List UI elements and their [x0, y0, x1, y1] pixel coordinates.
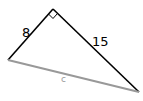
- left-leg: [8, 9, 53, 60]
- hypotenuse: [8, 60, 139, 92]
- triangle-svg: [0, 0, 143, 101]
- hypotenuse-label: c: [61, 75, 66, 84]
- leg-right-label: 15: [92, 35, 109, 48]
- right-angle-marker: [49, 14, 58, 19]
- leg-left-label: 8: [22, 26, 30, 39]
- triangle-diagram: 8 15 c: [0, 0, 143, 101]
